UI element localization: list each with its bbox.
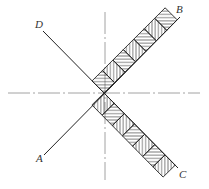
label-D: D xyxy=(34,18,43,30)
label-A: A xyxy=(35,152,43,164)
diagram-canvas: A B C D xyxy=(0,0,209,189)
line-DC xyxy=(43,31,178,168)
hatched-band-lower-arm xyxy=(92,93,175,177)
label-C: C xyxy=(179,168,187,180)
label-B: B xyxy=(176,3,183,15)
line-AB xyxy=(44,17,180,155)
